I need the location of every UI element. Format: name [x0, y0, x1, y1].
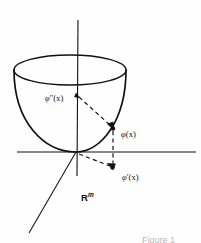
label-phi-arg: (x) — [126, 129, 136, 139]
diagonal-axis — [29, 152, 76, 233]
point-marker-phi-prime — [110, 165, 114, 169]
paraboloid-left-wall — [14, 70, 76, 152]
label-phi-prime: φ′(x) — [122, 173, 139, 182]
point-marker-phi — [111, 126, 115, 130]
paraboloid-rim-ellipse — [14, 55, 126, 85]
dashed-connector-phi-prime — [79, 154, 110, 166]
label-phi-double-prime-arg: (x) — [53, 93, 63, 103]
figure-caption: Figure 1 — [142, 235, 175, 243]
figure-container: φ′′(x) φ(x) φ′(x) Rm Figure 1 — [0, 0, 201, 243]
label-domain-space-superscript: m — [88, 191, 94, 198]
label-phi-double-prime: φ′′(x) — [45, 94, 63, 103]
paraboloid-diagram — [0, 0, 201, 243]
label-phi-double-prime-marks: ′′ — [50, 93, 53, 103]
label-domain-space-base: R — [81, 192, 88, 203]
label-phi: φ(x) — [121, 130, 136, 139]
label-phi-prime-arg: (x) — [128, 172, 138, 182]
dashed-connector-phi-double-prime — [79, 97, 111, 126]
label-domain-space: Rm — [81, 192, 94, 203]
